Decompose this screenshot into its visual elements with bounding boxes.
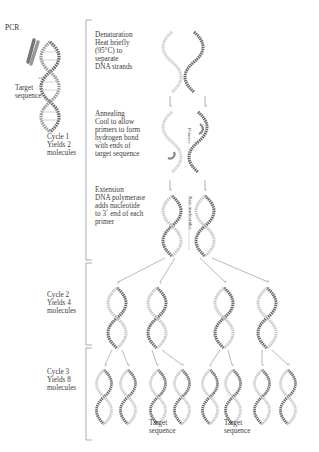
bottom-target-sequence-label-1: Target sequence	[149, 419, 175, 435]
denatured-strands	[163, 32, 203, 92]
bottom-target-sequence-label-2: Target sequence	[224, 419, 250, 435]
arrows-denat-to-anneal	[170, 96, 205, 106]
step-denaturation: Denaturation Heat briefly (95°C) to sepa…	[95, 31, 133, 71]
cycle-brackets	[86, 20, 92, 440]
primers-label: Primers	[187, 128, 192, 144]
cycle-3-label: Cycle 3 Yields 8 molecules	[47, 368, 76, 392]
new-nucleotides-label: New nucleotides	[188, 196, 193, 229]
figure-title: PCR	[5, 23, 19, 32]
cycle3-helices	[97, 370, 296, 424]
chromosome-icon	[28, 40, 38, 64]
step-extension: Extension DNA polymerase adds nucleotide…	[95, 186, 145, 226]
step-annealing: Annealing Cool to allow primers to form …	[95, 110, 140, 158]
arrows-cycle1-to-cycle2	[118, 258, 268, 282]
cycle-2-label: Cycle 2 Yields 4 molecules	[47, 291, 76, 315]
target-sequence-label: Target sequence	[15, 84, 41, 100]
cycle2-helices	[108, 288, 276, 348]
arrows-cycle2-to-cycle3	[105, 350, 288, 365]
annealing-strands	[163, 112, 207, 172]
cycle-1-label: Cycle 1 Yields 2 molecules	[47, 133, 76, 157]
initial-dna-helix	[41, 42, 59, 132]
arrows-anneal-to-ext	[170, 180, 205, 190]
